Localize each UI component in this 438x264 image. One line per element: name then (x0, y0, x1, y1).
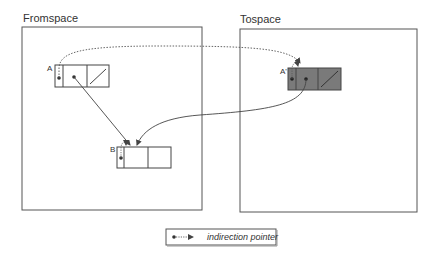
object-a-label: A (47, 64, 53, 73)
tospace-region (240, 29, 417, 212)
legend: indirection pointer (166, 229, 279, 246)
legend-dot-icon (172, 235, 176, 239)
object-b-label: B (110, 145, 115, 154)
object-a-prime-label: A' (280, 67, 287, 76)
object-a-prime: A' (280, 67, 341, 90)
legend-label: indirection pointer (207, 232, 279, 242)
pointer-a-prime-to-b (137, 79, 306, 145)
object-a: A (47, 64, 109, 87)
object-b: B (110, 145, 171, 168)
diagram-canvas: A A' B indirection pointer (0, 0, 438, 264)
